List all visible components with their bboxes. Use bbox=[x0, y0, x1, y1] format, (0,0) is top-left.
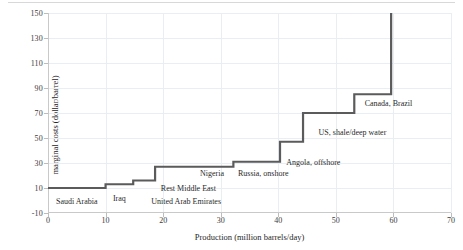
x-axis-tick-label: 70 bbox=[447, 216, 455, 225]
gridline-vertical bbox=[451, 13, 452, 213]
series-annotation-label: United Arab Emirates bbox=[151, 196, 221, 205]
series-annotation-label: Russia, onshore bbox=[238, 169, 289, 178]
x-axis-tick-label: 40 bbox=[274, 216, 282, 225]
x-axis-title: Production (million barrels/day) bbox=[48, 232, 451, 242]
plot-area: -101030507090110130150 010203040506070 S… bbox=[48, 13, 451, 213]
y-axis-tick-label: -10 bbox=[32, 209, 43, 218]
y-axis-tick-label: 110 bbox=[31, 59, 43, 68]
y-axis-tick-label: 50 bbox=[35, 134, 43, 143]
series-annotation-label: Iraq bbox=[113, 194, 126, 203]
series-annotation-label: Angola, offshore bbox=[286, 157, 340, 166]
y-axis-tick-label: 30 bbox=[35, 159, 43, 168]
x-axis-tick-label: 50 bbox=[332, 216, 340, 225]
x-axis-tick-label: 30 bbox=[217, 216, 225, 225]
x-axis-tick-label: 20 bbox=[159, 216, 167, 225]
supply-curve-series bbox=[48, 13, 451, 213]
chart-screenshot: marginal costs (dollar/barrel) Productio… bbox=[0, 0, 463, 250]
x-axis-tick-label: 0 bbox=[46, 216, 50, 225]
series-annotation-label: Rest Middle East bbox=[161, 184, 216, 193]
x-axis-tick-label: 10 bbox=[102, 216, 110, 225]
y-axis-tick-label: 70 bbox=[35, 109, 43, 118]
x-axis-tick-label: 60 bbox=[389, 216, 397, 225]
y-axis-tick-label: 130 bbox=[30, 34, 43, 43]
series-annotation-label: Nigeria bbox=[200, 169, 224, 178]
series-annotation-label: Canada, Brazil bbox=[365, 99, 413, 108]
series-annotation-label: US, shale/deep water bbox=[319, 127, 387, 136]
top-divider bbox=[8, 2, 455, 3]
series-annotation-label: Saudi Arabia bbox=[56, 196, 98, 205]
y-axis-tick-label: 150 bbox=[30, 9, 43, 18]
y-axis-tick-label: 10 bbox=[35, 184, 43, 193]
y-axis-tick-label: 90 bbox=[35, 84, 43, 93]
